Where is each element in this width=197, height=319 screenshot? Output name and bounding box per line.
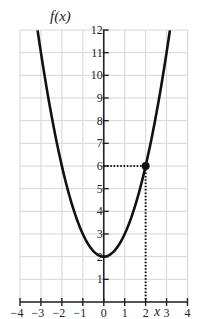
y-tick-label: 4 [97,204,103,218]
function-graph: −4−3−2−101234123456789101112 f(x) x [0,0,197,319]
x-tick-label: 0 [101,306,107,319]
y-tick-label: 5 [97,182,103,196]
y-tick-label: 12 [91,23,103,37]
x-tick-label: −1 [73,306,86,319]
x-tick-label: 3 [164,306,170,319]
x-tick-label: 2 [143,306,149,319]
y-tick-label: 3 [97,227,103,241]
x-tick-label: −2 [52,306,65,319]
y-tick-label: 1 [97,272,103,286]
x-tick-label: 4 [185,306,191,319]
x-tick-label: −4 [11,306,24,319]
highlighted-point [142,162,150,170]
y-tick-label: 10 [91,68,103,82]
x-tick-label: −3 [32,306,45,319]
x-tick-label: 1 [122,306,128,319]
y-tick-label: 7 [97,136,103,150]
x-axis-title: x [153,304,161,319]
y-tick-label: 6 [97,159,103,173]
y-tick-label: 8 [97,114,103,128]
y-axis-title: f(x) [50,8,71,25]
y-tick-label: 11 [91,46,103,60]
y-tick-label: 9 [97,91,103,105]
